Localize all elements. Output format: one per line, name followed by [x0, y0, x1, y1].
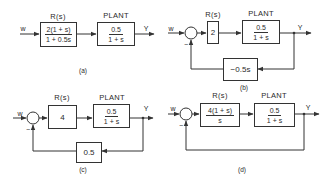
b-feedback-gain: −0.5s — [231, 65, 251, 74]
d-plant-numerator: 0.5 — [268, 107, 282, 116]
c-plant-numerator: 0.5 — [105, 108, 119, 117]
a-plant-title: PLANT — [103, 12, 129, 20]
d-minus-sign: − — [179, 122, 183, 129]
b-plant-numerator: 0.5 — [254, 24, 268, 33]
b-plant-block: 0.5 1 + s — [242, 20, 280, 44]
d-summing-junction — [180, 108, 192, 120]
c-feedback-block: 0.5 — [76, 142, 102, 163]
c-plant-block: 0.5 1 + s — [93, 104, 130, 128]
b-summing-junction — [185, 27, 197, 39]
c-controller-block: 4 — [48, 105, 77, 129]
d-controller-block: 4(1 + s) s — [200, 103, 240, 127]
c-summing-junction — [27, 112, 39, 124]
c-minus-sign: − — [26, 126, 30, 133]
b-plant-denominator: 1 + s — [253, 33, 268, 41]
b-controller-gain: 2 — [211, 28, 215, 37]
d-plant-title: PLANT — [261, 92, 287, 100]
c-plant-title: PLANT — [99, 94, 125, 102]
c-output-label: Y — [144, 105, 149, 112]
b-output-label: Y — [298, 24, 303, 31]
d-plant-block: 0.5 1 + s — [254, 103, 295, 127]
a-caption: (a) — [79, 68, 87, 75]
d-output-label: Y — [306, 104, 311, 111]
a-plant-denominator: 1 + s — [108, 35, 123, 43]
b-minus-sign: − — [184, 41, 188, 48]
a-controller-denominator: 1 + 0.5s — [46, 35, 71, 43]
b-plant-title: PLANT — [248, 10, 274, 18]
a-controller-block: 2(1 + s) 1 + 0.5s — [40, 22, 77, 47]
c-feedback-gain: 0.5 — [83, 148, 94, 157]
a-output-label: Y — [144, 25, 149, 32]
c-caption: (c) — [79, 167, 87, 174]
b-feedback-block: −0.5s — [223, 58, 258, 81]
c-controller-title: R(s) — [54, 94, 69, 102]
b-caption: (b) — [240, 85, 248, 92]
d-plant-denominator: 1 + s — [267, 116, 282, 124]
a-input-label: w — [20, 25, 25, 32]
a-plant-block: 0.5 1 + s — [97, 22, 135, 46]
d-caption: (d) — [238, 167, 246, 174]
d-controller-title: R(s) — [212, 92, 227, 100]
c-controller-gain: 4 — [60, 113, 64, 122]
b-controller-block: 2 — [207, 21, 219, 44]
d-input-label: w — [170, 105, 175, 112]
c-plant-denominator: 1 + s — [104, 117, 119, 125]
b-input-label: w — [168, 25, 173, 32]
d-controller-numerator: 4(1 + s) — [206, 107, 234, 116]
a-controller-numerator: 2(1 + s) — [45, 26, 73, 35]
d-controller-denominator: s — [218, 116, 222, 124]
a-plant-numerator: 0.5 — [109, 26, 123, 35]
b-controller-title: R(s) — [205, 11, 220, 19]
c-input-label: w — [17, 110, 22, 117]
a-controller-title: R(s) — [50, 13, 65, 21]
